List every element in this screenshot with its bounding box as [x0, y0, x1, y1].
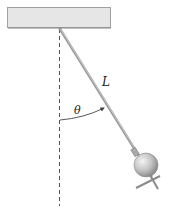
pendulum-bob — [134, 153, 158, 177]
length-label: L — [101, 75, 110, 89]
pendulum-diagram: L θ — [0, 0, 173, 212]
angle-arc — [60, 108, 104, 120]
ceiling-support — [8, 8, 111, 28]
pendulum-rod-highlight — [61, 29, 153, 177]
angle-label: θ — [74, 104, 81, 117]
